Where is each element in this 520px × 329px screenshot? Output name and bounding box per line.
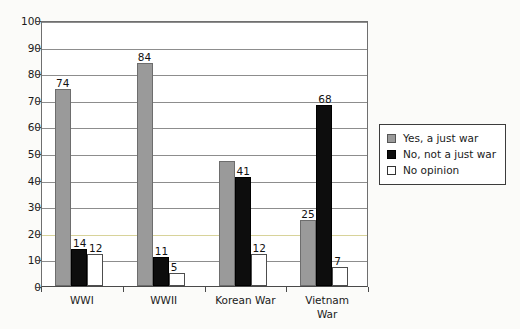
bar-noop-0 [87, 254, 103, 286]
legend-swatch-no-opinion-icon [387, 166, 396, 175]
bar-yes-0 [55, 89, 71, 286]
y-axis-tick-mark [36, 74, 41, 75]
legend-label: No opinion [403, 165, 459, 176]
gridline [42, 49, 367, 50]
legend-item[interactable]: No opinion [387, 162, 499, 178]
y-axis-tick-mark [36, 48, 41, 49]
legend-label: No, not a just war [403, 149, 496, 160]
plot-area: 74141284115411225687 [41, 21, 368, 287]
y-axis-tick-mark [36, 260, 41, 261]
legend-item[interactable]: No, not a just war [387, 146, 499, 162]
x-axis-category-line: Korean War [205, 293, 287, 307]
y-axis-tick-mark [36, 154, 41, 155]
x-axis-category-label: Korean War [205, 293, 287, 307]
x-axis-tick-mark [205, 287, 206, 292]
bar-yes-3 [300, 220, 316, 287]
bar-value-label: 14 [73, 238, 86, 249]
bar-value-label: 84 [138, 52, 151, 63]
bar-value-label: 12 [89, 243, 102, 254]
bar-value-label: 68 [318, 94, 331, 105]
bar-value-label: 25 [301, 209, 314, 220]
bar-noop-3 [332, 267, 348, 286]
x-axis-tick-mark [286, 287, 287, 292]
x-axis-category-line: Vietnam [286, 293, 368, 307]
bar-yes-2 [219, 161, 235, 286]
y-axis-tick-mark [36, 21, 41, 22]
bar-value-label: 11 [155, 246, 168, 257]
y-axis-tick-mark [36, 234, 41, 235]
bar-no-0 [71, 249, 87, 286]
bar-yes-1 [137, 63, 153, 286]
bar-noop-1 [169, 273, 185, 286]
y-axis: 0102030405060708090100 [0, 0, 41, 329]
bar-value-label: 5 [171, 262, 178, 273]
y-axis-tick-mark [36, 101, 41, 102]
y-axis-tick-mark [36, 207, 41, 208]
bar-noop-2 [251, 254, 267, 286]
x-axis-category-line: WWI [41, 293, 123, 307]
x-axis-category-label: WWI [41, 293, 123, 307]
legend-label: Yes, a just war [403, 133, 478, 144]
legend-swatch-no-icon [387, 150, 396, 159]
bar-no-3 [316, 105, 332, 286]
y-axis-tick-mark [36, 181, 41, 182]
x-axis-category-label: VietnamWar [286, 293, 368, 321]
x-axis-tick-mark [368, 287, 369, 292]
legend-swatch-yes-icon [387, 134, 396, 143]
bar-value-label: 12 [253, 243, 266, 254]
bar-value-label: 7 [334, 256, 341, 267]
bar-value-label: 74 [56, 78, 69, 89]
bar-no-2 [235, 177, 251, 286]
bar-no-1 [153, 257, 169, 286]
y-axis-tick-mark [36, 127, 41, 128]
x-axis-tick-mark [41, 287, 42, 292]
legend-item[interactable]: Yes, a just war [387, 130, 499, 146]
x-axis-category-line: WWII [123, 293, 205, 307]
chart-legend: Yes, a just war No, not a just war No op… [379, 124, 506, 185]
x-axis-category-label: WWII [123, 293, 205, 307]
gridline [42, 75, 367, 76]
bar-chart: 74141284115411225687 0102030405060708090… [0, 0, 520, 329]
x-axis-category-line: War [286, 307, 368, 321]
gridline [42, 22, 367, 23]
bar-value-label: 41 [237, 166, 250, 177]
x-axis-tick-mark [123, 287, 124, 292]
